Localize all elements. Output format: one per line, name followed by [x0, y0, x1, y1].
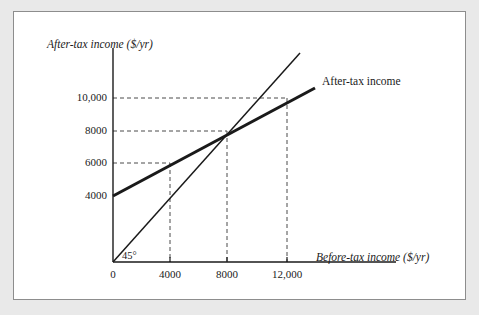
annotation-45-degree: 45° [122, 251, 137, 262]
y-tick-label-6000: 6000 [53, 157, 107, 168]
x-tick-label-4000: 4000 [140, 269, 200, 280]
series-label-after-tax-income: After-tax income [322, 76, 401, 88]
y-tick-label-4000: 4000 [53, 190, 107, 201]
x-tick-label-0: 0 [83, 269, 143, 280]
x-tick-label-12000: 12,000 [257, 269, 317, 280]
x-tick-label-8000: 8000 [197, 269, 257, 280]
y-tick-label-8000: 8000 [53, 125, 107, 136]
figure-container: After-tax income ($/yr) Before-tax incom… [0, 0, 479, 315]
series-45-degree-line [113, 53, 300, 262]
y-axis-title: After-tax income ($/yr) [47, 39, 153, 51]
x-axis-title: Before-tax income ($/yr) [316, 252, 429, 264]
y-tick-label-10000: 10,000 [53, 92, 107, 103]
series-after-tax-income-line [113, 88, 315, 196]
